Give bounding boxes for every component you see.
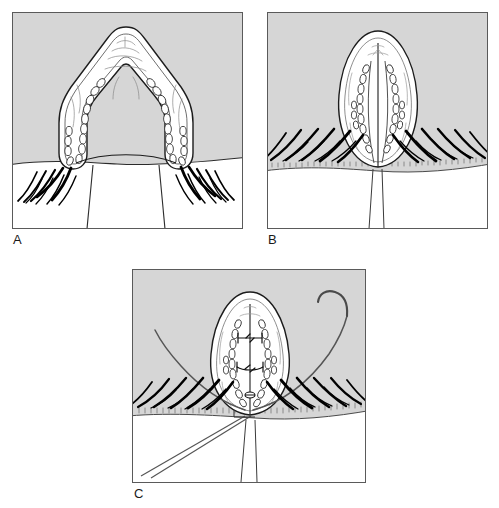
panel-b-frame: [267, 12, 488, 229]
panel-a-illustration: [13, 13, 243, 229]
marginal-suture: [245, 392, 255, 398]
panel-a: [12, 12, 243, 229]
conjunctival-surface: [133, 410, 366, 483]
panel-c-label: C: [134, 487, 144, 500]
lower-tissue-fill: [87, 165, 165, 229]
panel-b-illustration: [268, 13, 488, 229]
panel-b: [267, 12, 488, 229]
figure-root: A: [0, 0, 499, 508]
panel-a-label: A: [13, 233, 22, 246]
conjunctival-surface: [268, 163, 488, 229]
wound-base: [76, 155, 176, 163]
panel-c-frame: [132, 269, 366, 483]
panel-a-frame: [12, 12, 243, 229]
panel-c-illustration: [133, 270, 366, 483]
curved-needle: [318, 291, 347, 316]
panel-c: [132, 269, 366, 483]
panel-b-label: B: [268, 233, 277, 246]
